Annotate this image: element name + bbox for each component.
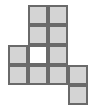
grid-cell-filled bbox=[69, 86, 87, 104]
grid-cell-filled bbox=[49, 46, 67, 64]
grid-cell-filled bbox=[49, 6, 67, 24]
polyomino-figure bbox=[0, 0, 96, 110]
grid-cell-filled bbox=[9, 66, 27, 84]
polyomino-grid-svg bbox=[0, 0, 96, 110]
grid-cell-filled bbox=[9, 46, 27, 64]
grid-cell-filled bbox=[29, 26, 47, 44]
grid-cell-filled bbox=[69, 66, 87, 84]
grid-cell-filled bbox=[49, 26, 67, 44]
grid-cell-filled bbox=[49, 66, 67, 84]
grid-cell-hole bbox=[29, 46, 47, 64]
grid-cell-filled bbox=[29, 66, 47, 84]
grid-cell-filled bbox=[29, 6, 47, 24]
